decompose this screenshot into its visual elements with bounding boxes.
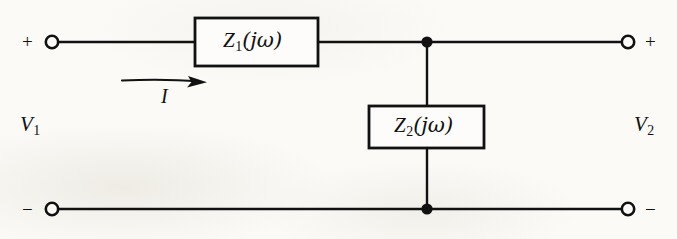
z2-argument: (jω) bbox=[413, 113, 453, 137]
output-positive-terminal bbox=[622, 36, 634, 48]
output-plus-sign: + bbox=[645, 32, 656, 51]
z1-symbol: Z bbox=[223, 28, 235, 52]
circuit-schematic-svg bbox=[0, 0, 677, 239]
output-negative-terminal bbox=[622, 203, 634, 215]
z2-impedance-label: Z2(jω) bbox=[394, 115, 453, 139]
z1-impedance-label: Z1(jω) bbox=[223, 30, 282, 54]
output-minus-sign: − bbox=[645, 200, 656, 219]
output-voltage-symbol: V bbox=[634, 112, 647, 136]
z1-argument: (jω) bbox=[242, 28, 282, 52]
bottom-junction-node-dot bbox=[421, 203, 432, 214]
z2-symbol: Z bbox=[394, 113, 406, 137]
input-voltage-subscript: 1 bbox=[33, 123, 40, 138]
circuit-diagram: + − + − V1 V2 I Z1(jω) Z2(jω) bbox=[0, 0, 677, 239]
output-voltage-subscript: 2 bbox=[647, 123, 654, 138]
z2-subscript: 2 bbox=[406, 124, 413, 139]
input-plus-sign: + bbox=[22, 32, 33, 51]
top-junction-node-dot bbox=[421, 36, 432, 47]
input-negative-terminal bbox=[46, 203, 58, 215]
input-port-voltage-label: V1 bbox=[20, 114, 40, 138]
input-positive-terminal bbox=[46, 36, 58, 48]
output-port-voltage-label: V2 bbox=[634, 114, 654, 138]
z1-subscript: 1 bbox=[235, 39, 242, 54]
current-arrow-shaft bbox=[122, 80, 199, 82]
input-voltage-symbol: V bbox=[20, 112, 33, 136]
current-label: I bbox=[161, 86, 168, 106]
input-minus-sign: − bbox=[22, 200, 33, 219]
